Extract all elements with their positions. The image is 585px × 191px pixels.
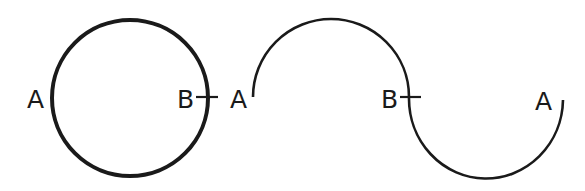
label-a-circle: A <box>27 85 44 114</box>
label-b-circle: B <box>177 85 194 114</box>
diagram-svg: A B A B A <box>0 0 585 191</box>
label-a-start: A <box>230 85 247 114</box>
label-b-middle: B <box>381 85 398 114</box>
label-a-end: A <box>535 87 552 116</box>
right-figure-s-curve: A B A <box>230 19 563 179</box>
diagram-canvas: A B A B A <box>0 0 585 191</box>
left-figure-circle: A B <box>27 20 218 176</box>
